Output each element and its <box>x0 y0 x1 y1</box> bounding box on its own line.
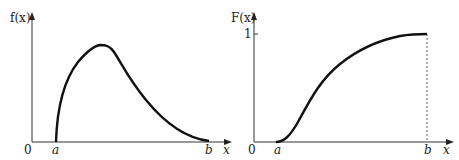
pdf-y-label: f(x) <box>10 11 31 25</box>
cdf-b-label: b <box>424 143 432 157</box>
diagram-canvas: f(x) 0 a b x F(x) 1 0 a b x <box>0 0 459 160</box>
cdf-x-label: x <box>443 143 450 157</box>
pdf-x-label: x <box>223 143 230 157</box>
cdf-y-label: F(x) <box>231 11 255 25</box>
cdf-origin-label: 0 <box>248 143 256 157</box>
cdf-chart: F(x) 1 0 a b x <box>231 11 450 157</box>
pdf-b-label: b <box>205 143 213 157</box>
cdf-curve <box>276 34 427 142</box>
pdf-a-label: a <box>52 143 59 157</box>
pdf-curve <box>56 45 209 142</box>
pdf-chart: f(x) 0 a b x <box>10 11 230 157</box>
pdf-origin-label: 0 <box>24 143 32 157</box>
cdf-a-label: a <box>274 143 281 157</box>
cdf-y-tick-label: 1 <box>244 27 252 41</box>
